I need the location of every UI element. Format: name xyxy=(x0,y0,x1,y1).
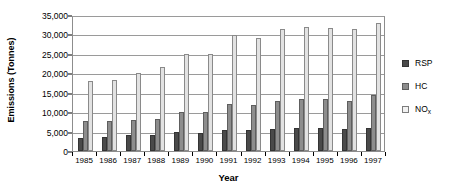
bar-nox xyxy=(352,29,357,151)
x-axis-tick-label: 1992 xyxy=(244,156,262,165)
x-axis-tick-label: 1990 xyxy=(196,156,214,165)
emissions-bar-chart: Emissions (Tonnes) 05,00010,00015,00020,… xyxy=(0,0,460,191)
year-bar-group xyxy=(242,17,266,151)
x-axis-tick-label: 1991 xyxy=(220,156,238,165)
bar-nox xyxy=(208,54,213,151)
year-bar-group xyxy=(193,17,217,151)
x-axis-tick-label: 1993 xyxy=(268,156,286,165)
year-bar-group xyxy=(290,17,314,151)
legend-swatch-rsp-icon xyxy=(402,60,409,67)
year-bar-group xyxy=(362,17,386,151)
year-bar-group xyxy=(266,17,290,151)
year-bar-group xyxy=(121,17,145,151)
y-axis-tick-label: 20,000 xyxy=(42,69,68,79)
x-axis-tick-label: 1995 xyxy=(316,156,334,165)
bars-layer xyxy=(73,17,384,151)
x-axis-tick-label: 1985 xyxy=(75,156,93,165)
plot-area xyxy=(72,16,385,152)
x-axis-tick-label: 1996 xyxy=(340,156,358,165)
y-axis-title: Emissions (Tonnes) xyxy=(0,0,22,160)
legend-item-nox[interactable]: NOx xyxy=(402,101,460,117)
x-axis-tick-label: 1994 xyxy=(292,156,310,165)
x-axis-tick-label: 1988 xyxy=(147,156,165,165)
bar-nox xyxy=(160,67,165,151)
x-axis-tick-mark xyxy=(385,152,386,156)
x-axis-tick-labels: 1985198619871988198919901991199219931994… xyxy=(72,156,385,170)
bar-nox xyxy=(328,28,333,151)
year-bar-group xyxy=(169,17,193,151)
bar-nox xyxy=(136,73,141,151)
bar-nox xyxy=(376,23,381,151)
bar-nox xyxy=(232,35,237,151)
legend-swatch-nox-icon xyxy=(402,106,409,113)
year-bar-group xyxy=(314,17,338,151)
x-axis-title: Year xyxy=(72,172,385,183)
y-axis-tick-label: 25,000 xyxy=(42,50,68,60)
bar-nox xyxy=(304,27,309,151)
legend: RSPHCNOx xyxy=(402,55,460,124)
year-bar-group xyxy=(145,17,169,151)
x-axis-tick-label: 1989 xyxy=(171,156,189,165)
y-axis-tick-label: 30,000 xyxy=(42,30,68,40)
y-axis-tick-label: 35,000 xyxy=(42,11,68,21)
year-bar-group xyxy=(217,17,241,151)
legend-item-hc[interactable]: HC xyxy=(402,78,460,94)
bar-nox xyxy=(256,38,261,151)
y-axis-tick-label: 10,000 xyxy=(42,108,68,118)
y-axis-title-text: Emissions (Tonnes) xyxy=(6,38,16,123)
bar-nox xyxy=(184,54,189,151)
year-bar-group xyxy=(73,17,97,151)
legend-label-rsp: RSP xyxy=(415,58,432,68)
legend-label-hc: HC xyxy=(415,81,427,91)
bar-nox xyxy=(88,81,93,151)
y-axis-tick-label: 15,000 xyxy=(42,89,68,99)
year-bar-group xyxy=(338,17,362,151)
y-axis-tick-labels: 05,00010,00015,00020,00025,00030,00035,0… xyxy=(22,10,72,156)
y-axis-tick-label: 5,000 xyxy=(47,128,68,138)
legend-label-nox: NOx xyxy=(415,104,431,114)
x-axis-tick-label: 1986 xyxy=(99,156,117,165)
legend-item-rsp[interactable]: RSP xyxy=(402,55,460,71)
bar-nox xyxy=(112,80,117,151)
legend-swatch-hc-icon xyxy=(402,83,409,90)
year-bar-group xyxy=(97,17,121,151)
bar-nox xyxy=(280,29,285,151)
x-axis-tick-label: 1997 xyxy=(364,156,382,165)
x-axis-tick-label: 1987 xyxy=(123,156,141,165)
